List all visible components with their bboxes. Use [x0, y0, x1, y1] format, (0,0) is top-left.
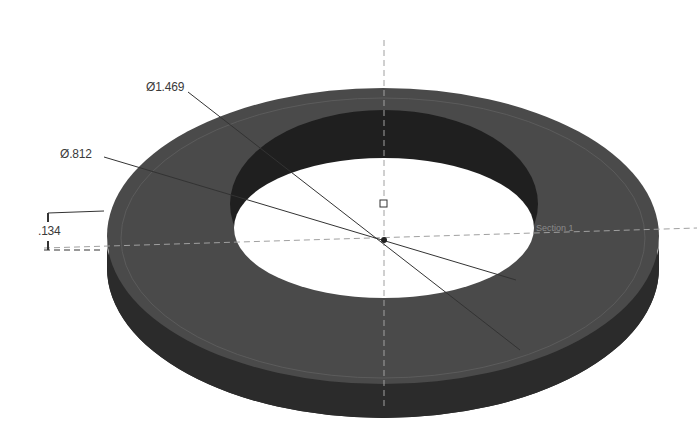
origin-marker — [380, 200, 387, 207]
washer-model — [0, 0, 697, 424]
inner-diameter-label[interactable]: Ø.812 — [60, 147, 92, 161]
cad-viewport[interactable]: Ø1.469 Ø.812 .134 Section 1 — [0, 0, 697, 424]
center-point — [381, 237, 387, 243]
thickness-ext-top — [48, 211, 104, 213]
outer-diameter-label[interactable]: Ø1.469 — [146, 80, 184, 94]
thickness-label[interactable]: .134 — [38, 224, 61, 238]
hole-opening — [234, 158, 534, 298]
section-label: Section 1 — [536, 223, 574, 233]
